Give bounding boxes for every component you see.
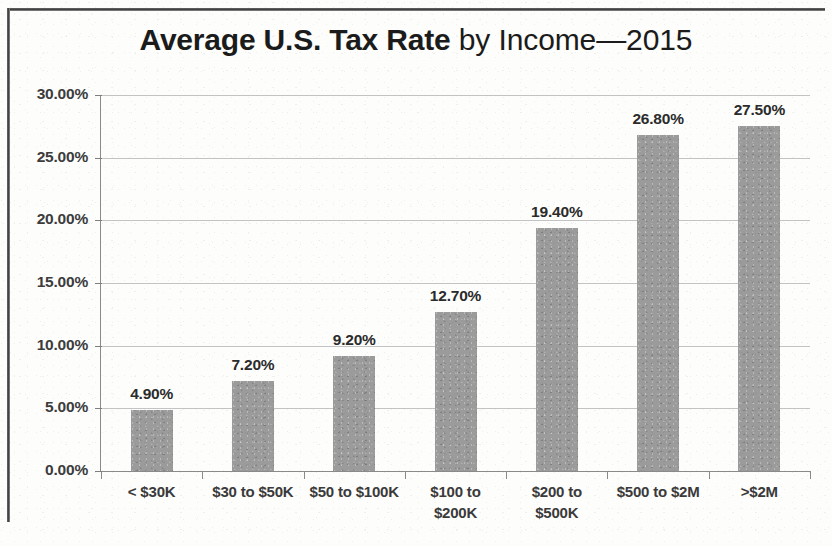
bar-value-label: 27.50%	[709, 101, 809, 119]
bar	[536, 228, 578, 471]
chart-page: Average U.S. Tax Rate by Income—2015 0.0…	[0, 0, 832, 546]
x-axis-tick	[810, 471, 811, 479]
bar	[131, 410, 173, 471]
scan-frame-top-border	[7, 8, 825, 11]
x-axis-line	[100, 471, 811, 472]
x-axis-label: < $30K	[101, 481, 202, 502]
bar	[435, 312, 477, 471]
y-axis-tick	[95, 220, 102, 221]
bar	[232, 381, 274, 471]
x-axis-tick	[405, 471, 406, 479]
x-axis-label: $200 to$500K	[506, 481, 607, 523]
x-axis-label: >$2M	[709, 481, 810, 502]
x-axis-tick	[506, 471, 507, 479]
y-axis-label: 5.00%	[0, 398, 88, 416]
bar-value-label: 26.80%	[608, 110, 708, 128]
plot-area	[101, 95, 810, 471]
x-axis-label: $50 to $100K	[304, 481, 405, 502]
y-axis-tick	[95, 158, 102, 159]
y-axis-label: 10.00%	[0, 336, 88, 354]
x-axis-tick	[607, 471, 608, 479]
y-axis-tick	[95, 346, 102, 347]
bar-value-label: 9.20%	[304, 331, 404, 349]
gridline	[101, 283, 810, 284]
bar	[333, 356, 375, 471]
y-axis-label: 25.00%	[0, 148, 88, 166]
gridline	[101, 158, 810, 159]
y-axis-tick	[95, 408, 102, 409]
y-axis-label: 0.00%	[0, 461, 88, 479]
chart-title-light: by Income—2015	[450, 23, 692, 56]
scan-frame-left-border	[7, 8, 10, 522]
bar-value-label: 19.40%	[507, 203, 607, 221]
y-axis-tick	[95, 95, 102, 96]
x-axis-tick	[202, 471, 203, 479]
y-axis-label: 15.00%	[0, 273, 88, 291]
y-axis-label: 20.00%	[0, 210, 88, 228]
y-axis-tick	[95, 471, 102, 472]
bar-value-label: 7.20%	[203, 356, 303, 374]
x-axis-label: $500 to $2M	[607, 481, 708, 502]
bar-value-label: 4.90%	[102, 385, 202, 403]
bar-value-label: 12.70%	[406, 287, 506, 305]
bar	[738, 126, 780, 471]
x-axis-tick	[304, 471, 305, 479]
x-axis-label: $100 to$200K	[405, 481, 506, 523]
bar	[637, 135, 679, 471]
y-axis-tick	[95, 283, 102, 284]
chart-title: Average U.S. Tax Rate by Income—2015	[0, 21, 832, 59]
x-axis-label: $30 to $50K	[202, 481, 303, 502]
y-axis-label: 30.00%	[0, 85, 88, 103]
x-axis-tick	[101, 471, 102, 479]
gridline	[101, 95, 810, 96]
gridline	[101, 220, 810, 221]
chart-title-strong: Average U.S. Tax Rate	[140, 23, 451, 56]
x-axis-tick	[709, 471, 710, 479]
